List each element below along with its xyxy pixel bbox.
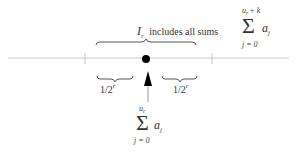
arrow-head [144, 71, 152, 86]
right-bracket-label: 1/2r [173, 84, 189, 95]
interval-text: includes all sums [149, 26, 218, 37]
sigma-icon: Σ [242, 15, 255, 37]
interval-brace [96, 39, 196, 45]
interval-label: Ir includes all sums [137, 24, 218, 39]
sigma-icon: Σ [136, 112, 149, 134]
point-sum-term: aj [154, 118, 162, 133]
point-sum-lower-limit: j = 0 [134, 136, 150, 145]
point-dot [142, 55, 150, 63]
interval-subscript: r [141, 32, 144, 40]
upper-sum-lower-limit: j = 0 [242, 40, 258, 49]
upper-sum-term: aj [262, 21, 270, 36]
right-brace [162, 76, 197, 82]
left-bracket-label: 1/2r [100, 84, 116, 95]
